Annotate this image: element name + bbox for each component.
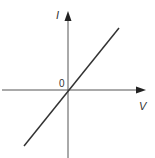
- x-axis-label: V: [139, 100, 148, 112]
- iv-line: [24, 28, 119, 146]
- x-axis-arrow-icon: [136, 87, 146, 94]
- y-axis-arrow-icon: [65, 11, 72, 21]
- origin-label: 0: [59, 78, 65, 89]
- y-axis-label: I: [56, 9, 59, 21]
- iv-graph: I 0 V: [0, 0, 155, 158]
